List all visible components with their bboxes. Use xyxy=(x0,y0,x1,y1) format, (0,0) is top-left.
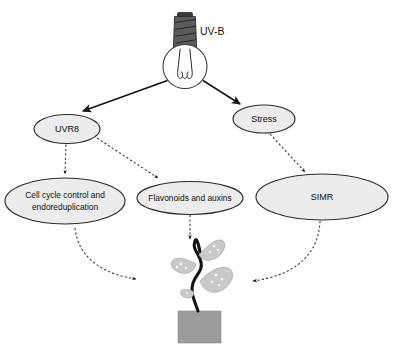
plant-leaf xyxy=(200,267,233,292)
node-uvr8-label: UVR8 xyxy=(55,124,79,134)
node-flavonoids-and-auxins[interactable]: Flavonoids and auxins xyxy=(137,182,243,215)
plant-leaf xyxy=(199,240,225,260)
diagram-canvas: UV-B UVR8 Stress Cell cycle control and … xyxy=(0,0,402,348)
edge-uvr8-to-cellcycle xyxy=(65,145,66,175)
node-cell-cycle-control-label-line2: endoreduplication xyxy=(32,202,98,212)
node-simr-label: SIMR xyxy=(311,192,334,202)
node-cell-cycle-control-label-line1: Cell cycle control and xyxy=(25,190,105,200)
plant-stem xyxy=(192,240,201,311)
edge-uvr8-to-flavonoids xyxy=(97,138,158,178)
soil-block xyxy=(178,311,221,343)
edge-cellcycle-to-seedling xyxy=(75,228,136,279)
node-simr[interactable]: SIMR xyxy=(256,174,388,220)
node-stress[interactable]: Stress xyxy=(233,105,295,133)
bulb-glass-globe xyxy=(163,45,207,89)
node-flavonoids-and-auxins-label: Flavonoids and auxins xyxy=(148,193,231,203)
node-uvr8[interactable]: UVR8 xyxy=(34,115,100,144)
node-stress-label: Stress xyxy=(251,114,277,124)
pathway-diagram: UV-B UVR8 Stress Cell cycle control and … xyxy=(0,0,402,348)
uv-b-source-group: UV-B xyxy=(163,13,225,89)
seedling-illustration xyxy=(171,240,233,343)
uv-b-label: UV-B xyxy=(200,25,225,37)
node-cell-cycle-control[interactable]: Cell cycle control and endoreduplication xyxy=(5,178,125,224)
edge-uvb-to-uvr8 xyxy=(83,81,168,112)
plant-leaf xyxy=(171,258,196,273)
edge-simr-to-seedling xyxy=(253,221,320,281)
edge-uvb-to-stress xyxy=(203,81,240,105)
edge-stress-to-simr xyxy=(270,134,305,172)
